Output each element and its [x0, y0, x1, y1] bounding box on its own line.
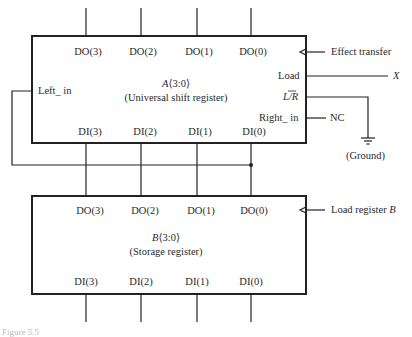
- register-b-di1: DI(1): [185, 277, 208, 288]
- register-a-do1: DO(1): [185, 47, 212, 58]
- register-a-description: (Universal shift register): [124, 93, 227, 104]
- register-b-di2: DI(2): [129, 277, 152, 288]
- register-b-do2: DO(2): [131, 206, 158, 217]
- nc-label: NC: [330, 113, 345, 124]
- register-b-title: B⟨3:0⟩: [152, 233, 180, 244]
- register-a-left-in-label: Left_ in: [38, 86, 72, 97]
- register-a-do0: DO(0): [239, 47, 266, 58]
- register-a-di2: DI(2): [133, 127, 156, 138]
- register-b-do3: DO(3): [76, 206, 103, 217]
- effect-transfer-label: Effect transfer: [331, 47, 391, 58]
- load-register-b-label: Load register B: [331, 205, 396, 216]
- register-b-di3: DI(3): [74, 277, 97, 288]
- figure-caption: Figure 5.5: [2, 327, 39, 337]
- register-a-do3: DO(3): [74, 47, 101, 58]
- x-signal-label: X: [393, 71, 399, 82]
- register-a-lr-label: L/R: [283, 92, 298, 103]
- register-a-di0: DI(0): [242, 127, 265, 138]
- junction-dot: [249, 163, 253, 167]
- ground-label: (Ground): [346, 151, 385, 162]
- register-a-load-label: Load: [278, 71, 300, 82]
- register-b-do0: DO(0): [240, 206, 267, 217]
- register-b-description: (Storage register): [129, 247, 202, 258]
- register-b-do1: DO(1): [187, 206, 214, 217]
- register-a-do2: DO(2): [129, 47, 156, 58]
- register-a-di1: DI(1): [188, 127, 211, 138]
- register-a-right-in-label: Right_ in: [259, 113, 298, 124]
- register-b-di0: DI(0): [239, 277, 262, 288]
- ground-icon: [361, 136, 375, 146]
- register-a-title: A⟨3:0⟩: [162, 79, 190, 90]
- register-a-di3: DI(3): [78, 127, 101, 138]
